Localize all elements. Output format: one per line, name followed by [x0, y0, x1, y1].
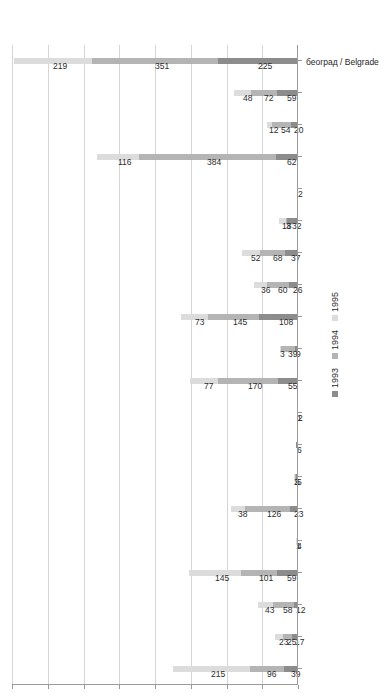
bar-group[interactable]: 376852лепо / a / nice [242, 250, 298, 256]
category-tick [298, 316, 302, 317]
bar-group[interactable]: 205412девизе / currency / foreign exchan… [267, 122, 298, 128]
bar-group[interactable]: 125843цигаре / cigarettes [258, 602, 298, 608]
bar-segment[interactable]: 73 [181, 314, 207, 320]
legend-item[interactable]: 1994 [330, 330, 340, 359]
gridline [262, 45, 263, 685]
category-tick [298, 476, 302, 477]
bar-value-label: 23 [279, 637, 288, 647]
bar-group[interactable]: 5517077оружје / weapons [190, 378, 298, 384]
bar-value-label: 116 [118, 157, 132, 167]
legend-label: 1994 [330, 330, 340, 350]
gridline [12, 45, 13, 685]
bar-group[interactable]: 2312638турска / Turkey [231, 506, 298, 512]
bar-segment[interactable]: 62 [276, 154, 298, 160]
y-tick-mark [262, 685, 263, 689]
bar-segment[interactable]: 38 [231, 506, 245, 512]
bar-value-label: 54 [281, 125, 290, 135]
bar-value-label: 2 [298, 189, 303, 199]
bar-value-label: 12 [269, 125, 278, 135]
bar-group[interactable]: 32318ислам / Islam [279, 218, 298, 224]
y-tick-mark [84, 685, 85, 689]
bar-group[interactable]: 59101145цене / price/s [189, 570, 298, 576]
bar-segment[interactable]: 59 [277, 90, 298, 96]
category-tick [298, 124, 302, 125]
gridline [191, 45, 192, 685]
y-tick-mark [119, 685, 120, 689]
bar-segment[interactable]: 60 [267, 282, 288, 288]
bar-segment[interactable]: 3 [280, 346, 281, 352]
bar-value-label: 351 [155, 61, 169, 71]
bar-segment[interactable]: 36 [254, 282, 267, 288]
bar-value-label: 225 [258, 61, 272, 71]
bar-segment[interactable]: 108 [259, 314, 298, 320]
bar-value-label: 18 [282, 221, 291, 231]
bar-segment[interactable]: 43 [258, 602, 273, 608]
bar-group[interactable]: 62384116добро/а / good [97, 154, 298, 160]
bar-segment[interactable]: 48 [234, 90, 251, 96]
bar-group[interactable]: 172523црно тржиште / black market [275, 634, 298, 640]
bar-segment[interactable]: 225 [218, 58, 298, 64]
bar-segment[interactable]: 145 [208, 314, 260, 320]
gridline [48, 45, 49, 685]
category-tick [298, 508, 302, 509]
bar-value-label: 3 [280, 349, 285, 359]
chart-figure: 3996215шверц / šverc (smuggle/smuggling)… [0, 0, 385, 697]
bar-segment[interactable]: 170 [218, 378, 279, 384]
bar-segment[interactable]: 58 [273, 602, 294, 608]
gridline [119, 45, 120, 685]
bar-group[interactable]: 597248границе/а / border/s [234, 90, 298, 96]
legend-label: 1993 [330, 368, 340, 388]
bar-segment[interactable]: 384 [139, 154, 276, 160]
bar-segment[interactable]: 2 [294, 474, 295, 480]
bar-segment[interactable]: 55 [278, 378, 298, 384]
legend-item[interactable]: 1993 [330, 368, 340, 397]
bar-group[interactable]: 266036лоше / a / bad [254, 282, 298, 288]
bar-group[interactable]: 3996215шверц / šverc (smuggle/smuggling) [173, 666, 298, 672]
bar-value-label: 219 [53, 61, 67, 71]
category-tick [298, 188, 302, 189]
bar-value-label: 26 [293, 285, 302, 295]
bar-segment[interactable]: 77 [190, 378, 218, 384]
bar-segment[interactable]: 52 [242, 250, 261, 256]
bar-value-label: 215 [211, 669, 225, 679]
bar-group[interactable]: 9393Нови Пазар Novi Pazar [280, 346, 298, 352]
bar-value-label: 170 [248, 381, 262, 391]
bar-segment[interactable]: 101 [241, 570, 277, 576]
bar-segment[interactable]: 351 [92, 58, 217, 64]
category-tick [298, 348, 302, 349]
y-tick-mark [227, 685, 228, 689]
bar-segment[interactable]: 145 [189, 570, 241, 576]
bar-segment[interactable]: 72 [251, 90, 277, 96]
gridline [227, 45, 228, 685]
bar-group[interactable]: 225351219београд / Belgrade [14, 58, 298, 64]
bar-value-label: 52 [251, 253, 260, 263]
bar-value-label: 43 [265, 605, 274, 615]
bar-segment[interactable]: 215 [173, 666, 250, 672]
bar-value-label: 59 [287, 93, 296, 103]
bar-value-label: 39 [291, 669, 300, 679]
bar-segment[interactable]: 96 [250, 666, 284, 672]
legend-item[interactable]: 1995 [330, 292, 340, 321]
bar-segment[interactable]: 23 [275, 634, 283, 640]
category-tick [298, 252, 302, 253]
legend-label: 1995 [330, 292, 340, 312]
bar-segment[interactable]: 18 [279, 218, 285, 224]
category-tick [298, 92, 302, 93]
category-tick [298, 220, 302, 221]
bar-segment[interactable]: 68 [260, 250, 284, 256]
bar-segment[interactable]: 59 [277, 570, 298, 576]
category-tick [298, 284, 302, 285]
bar-segment[interactable]: 12 [267, 122, 271, 128]
category-tick [298, 156, 302, 157]
bar-value-label: 38 [238, 509, 247, 519]
chart-legend: 199319941995 [330, 292, 340, 397]
category-tick [298, 380, 302, 381]
category-tick [298, 572, 302, 573]
bar-segment[interactable]: 219 [14, 58, 92, 64]
bar-group[interactable]: 10814573Муслиман / Muslim/s [181, 314, 298, 320]
gridline [155, 45, 156, 685]
bar-value-label: 108 [279, 317, 293, 327]
bar-segment[interactable]: 116 [97, 154, 138, 160]
bar-segment[interactable]: 126 [245, 506, 290, 512]
bar-segment[interactable]: 39 [284, 666, 298, 672]
